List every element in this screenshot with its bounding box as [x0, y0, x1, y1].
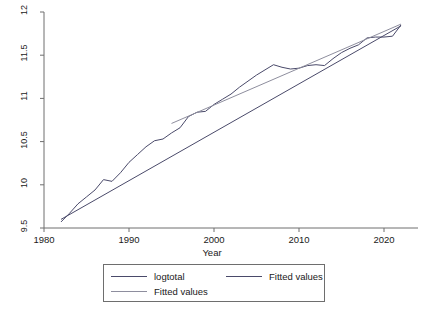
x-axis-title: Year — [0, 247, 424, 258]
y-axis-ticks — [40, 12, 44, 228]
legend-label-fitted-values-1: Fitted values — [269, 271, 323, 282]
legend-item-fitted-values-2: Fitted values — [111, 284, 208, 298]
legend-item-logtotal: logtotal — [111, 269, 185, 283]
y-tick-label: 11 — [12, 91, 36, 101]
x-tick-label: 2020 — [362, 234, 406, 245]
series-line-fitted-values-1 — [61, 26, 401, 220]
series-group — [61, 24, 401, 222]
legend-key-fitted-values-1 — [226, 276, 262, 277]
chart-root: 9.51010.51111.512 19801990200020102020 Y… — [0, 0, 424, 314]
y-tick-label: 10.5 — [12, 135, 36, 145]
x-tick-label: 2000 — [192, 234, 236, 245]
legend-key-fitted-values-2 — [111, 291, 147, 292]
x-tick-label: 1990 — [107, 234, 151, 245]
series-line-fitted-values-2 — [172, 24, 402, 123]
legend-key-logtotal — [111, 276, 147, 277]
legend-label-fitted-values-2: Fitted values — [154, 286, 208, 297]
y-tick-label: 11.5 — [12, 48, 36, 58]
chart-legend: logtotal Fitted values Fitted values — [103, 264, 325, 302]
x-tick-label: 1980 — [22, 234, 66, 245]
y-tick-label: 10 — [12, 178, 36, 188]
y-tick-label: 9.5 — [12, 221, 36, 231]
y-tick-label: 12 — [12, 5, 36, 15]
legend-label-logtotal: logtotal — [154, 271, 185, 282]
legend-item-fitted-values-1: Fitted values — [226, 269, 323, 283]
x-tick-label: 2010 — [277, 234, 321, 245]
x-axis-ticks — [44, 228, 384, 232]
